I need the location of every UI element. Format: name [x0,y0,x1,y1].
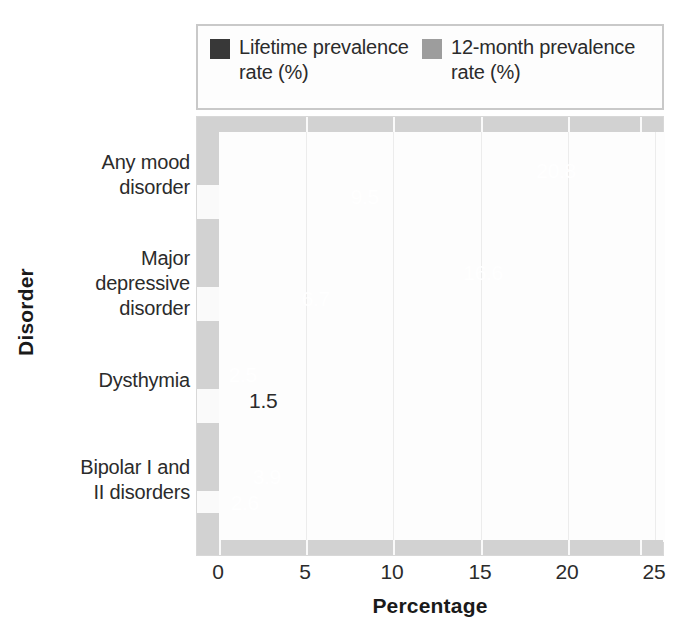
plot-area: 20.8 9.5 16.6 6.7 [196,116,664,556]
x-tick-10: 10 [381,560,404,584]
bar-row-lifetime: 3.9 [219,464,287,490]
plot-left-gutter [197,117,219,555]
x-tick-20: 20 [556,560,579,584]
bar-value-12-month-dysthymia: 1.5 [249,388,277,414]
legend-label-12-month: 12-month prevalence rate (%) [451,35,635,85]
category-label-dysthymia: Dysthymia [12,368,190,393]
bar-value-lifetime-major-depressive-disorder: 16.6 [463,260,503,286]
bar-value-12-month-major-depressive-disorder: 6.7 [302,286,330,312]
bar-group-bipolar-disorders: 3.9 2.6 [219,464,665,516]
plot-canvas: 20.8 9.5 16.6 6.7 [219,132,665,542]
bar-value-12-month-any-mood-disorder: 9.5 [351,184,379,210]
bar-row-12-month: 2.6 [219,490,265,516]
x-tick-0: 0 [212,560,223,584]
bar-chart-figure: Lifetime prevalence rate (%) 12-month pr… [0,0,690,639]
legend-swatch-gray-icon [422,39,442,59]
bar-row-lifetime: 2.5 [219,362,263,388]
bar-value-lifetime-any-mood-disorder: 20.8 [536,158,576,184]
bar-row-lifetime: 20.8 [219,158,582,184]
bar-row-12-month: 6.7 [219,286,336,312]
x-axis-title: Percentage [196,594,664,618]
x-tick-5: 5 [299,560,310,584]
legend-swatch-dark-icon [210,39,230,59]
category-label-major-depressive-disorder: Major depressive disorder [12,246,190,321]
bar-row-lifetime: 16.6 [219,260,509,286]
legend-entry-lifetime: Lifetime prevalence rate (%) [210,35,422,85]
bar-group-dysthymia: 2.5 1.5 [219,362,665,414]
x-tick-15: 15 [469,560,492,584]
legend-entry-12-month: 12-month prevalence rate (%) [422,35,635,85]
plot-bottom-band [197,540,663,555]
y-axis-title: Disorder [14,242,38,382]
chart-legend: Lifetime prevalence rate (%) 12-month pr… [196,24,664,110]
category-label-bipolar-disorders: Bipolar I and II disorders [12,455,190,505]
legend-label-lifetime: Lifetime prevalence rate (%) [239,35,409,85]
bar-value-12-month-bipolar-disorders: 2.6 [231,490,259,516]
category-label-any-mood-disorder: Any mood disorder [12,150,190,200]
bar-group-any-mood-disorder: 20.8 9.5 [219,158,665,210]
bar-value-lifetime-bipolar-disorders: 3.9 [253,464,281,490]
x-tick-25: 25 [643,560,666,584]
plot-top-band [197,117,663,132]
bar-row-12-month: 9.5 [219,184,385,210]
bar-group-major-depressive-disorder: 16.6 6.7 [219,260,665,312]
x-axis-tick-labels: 0 5 10 15 20 25 [196,560,664,588]
bar-row-12-month: 1.5 [219,388,245,414]
bar-value-lifetime-dysthymia: 2.5 [229,362,257,388]
